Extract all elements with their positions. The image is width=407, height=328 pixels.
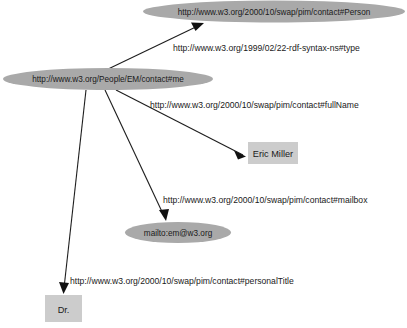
mailbox-value-label: mailto:em@w3.org (144, 229, 213, 238)
rdf-graph-diagram: http://www.w3.org/2000/10/swap/pim/conta… (0, 0, 407, 328)
node-person-class[interactable]: http://www.w3.org/2000/10/swap/pim/conta… (143, 1, 405, 23)
arrowhead-mailbox (159, 209, 169, 221)
fullname-value-label: Eric Miller (253, 149, 293, 159)
arrowhead-personal-title (59, 282, 69, 294)
graph-canvas: http://www.w3.org/2000/10/swap/pim/conta… (0, 0, 407, 328)
person-class-label: http://www.w3.org/2000/10/swap/pim/conta… (178, 8, 371, 17)
edge-personal-title (59, 90, 86, 294)
node-mailbox-value[interactable]: mailto:em@w3.org (125, 222, 231, 243)
edge-label-mailbox: http://www.w3.org/2000/10/swap/pim/conta… (163, 195, 368, 205)
edge-label-personal-title: http://www.w3.org/2000/10/swap/pim/conta… (70, 276, 294, 286)
edge-label-rdf-type: http://www.w3.org/1999/02/22-rdf-syntax-… (173, 43, 360, 53)
edge-label-full-name: http://www.w3.org/2000/10/swap/pim/conta… (150, 100, 359, 110)
arrowhead-full-name (234, 151, 246, 160)
title-value-label: Dr. (58, 305, 70, 315)
arrowhead-rdf-type (191, 23, 204, 32)
node-title-value[interactable]: Dr. (45, 295, 82, 322)
node-subject-me[interactable]: http://www.w3.org/People/EM/contact#me (3, 68, 213, 90)
subject-me-label: http://www.w3.org/People/EM/contact#me (32, 75, 184, 84)
edge-line-personal-title (64, 90, 86, 288)
node-fullname-value[interactable]: Eric Miller (248, 142, 298, 164)
